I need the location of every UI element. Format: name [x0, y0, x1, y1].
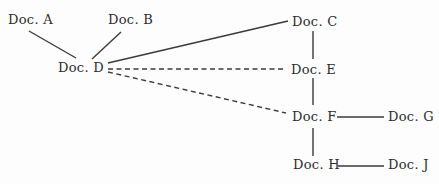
- node-doc-f: Doc. F: [292, 110, 337, 123]
- edge-doc-d-doc-f: [108, 72, 286, 113]
- node-doc-h: Doc. H: [293, 158, 340, 171]
- node-doc-c: Doc. C: [292, 15, 338, 28]
- node-doc-e: Doc. E: [291, 63, 336, 76]
- node-doc-d: Doc. D: [58, 61, 104, 74]
- edges-layer: [0, 0, 439, 184]
- document-link-diagram: Doc. ADoc. BDoc. CDoc. DDoc. EDoc. FDoc.…: [0, 0, 439, 184]
- node-doc-b: Doc. B: [108, 13, 153, 26]
- edge-doc-d-doc-c: [108, 21, 288, 63]
- node-doc-j: Doc. J: [388, 158, 429, 171]
- node-doc-g: Doc. G: [388, 110, 434, 123]
- node-doc-a: Doc. A: [8, 13, 53, 26]
- edge-doc-b-doc-d: [92, 32, 121, 59]
- edge-doc-a-doc-d: [29, 31, 76, 58]
